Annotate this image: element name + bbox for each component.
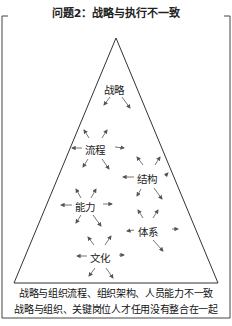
- pyramid-triangle: [14, 38, 218, 283]
- caption-line-1: 战略与组织流程、组织架构、人员能力不一致: [0, 285, 232, 300]
- node-strategy: 战略: [104, 82, 124, 97]
- arrows: [61, 97, 178, 278]
- triangle-diagram: [0, 0, 232, 326]
- node-capability: 能力: [75, 199, 95, 214]
- node-culture: 文化: [90, 250, 110, 265]
- node-process: 流程: [85, 142, 105, 157]
- caption-line-2: 战略与组织、关键岗位人才任用没有整合在一起: [0, 301, 232, 316]
- node-structure: 结构: [137, 171, 157, 186]
- node-system: 体系: [138, 224, 158, 239]
- frame: [2, 16, 230, 318]
